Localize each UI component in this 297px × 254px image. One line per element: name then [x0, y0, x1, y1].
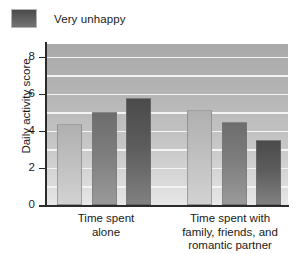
x-axis-group-label-line: Time spent	[46, 212, 166, 226]
x-axis-group-label-line: family, friends, and	[168, 226, 292, 240]
y-tick	[39, 168, 45, 170]
bar-g1-s0[interactable]	[187, 110, 212, 205]
y-tick-label-4: 4	[29, 125, 35, 137]
y-tick-label-6: 6	[29, 88, 35, 100]
bar-g1-s2[interactable]	[256, 140, 281, 205]
gridline	[46, 186, 288, 188]
gridline	[46, 94, 288, 96]
x-axis-group-label-line: romantic partner	[168, 239, 292, 253]
gridline	[46, 131, 288, 133]
gridline	[46, 75, 288, 77]
x-axis-group-label-0: Time spentalone	[46, 212, 166, 239]
y-axis-line	[45, 42, 47, 207]
y-tick-label-0: 0	[29, 199, 35, 211]
bar-g0-s2[interactable]	[126, 98, 151, 205]
bar-g0-s0[interactable]	[57, 124, 82, 205]
bar-chart: Daily activity score 02468 Time spentalo…	[0, 38, 297, 254]
y-tick-label-8: 8	[29, 51, 35, 63]
gridline	[46, 168, 288, 170]
y-tick	[39, 131, 45, 133]
gridline	[46, 149, 288, 151]
x-axis-group-label-line: alone	[46, 226, 166, 240]
plot-area	[46, 44, 288, 205]
bar-g0-s1[interactable]	[92, 112, 117, 205]
bar-g1-s1[interactable]	[222, 122, 247, 205]
x-axis-group-label-1: Time spent withfamily, friends, androman…	[168, 212, 292, 253]
y-tick	[39, 205, 45, 207]
gridline	[46, 112, 288, 114]
x-axis-line	[45, 205, 289, 207]
legend-swatch-very-unhappy	[11, 9, 37, 28]
chart-legend: Very unhappy	[11, 9, 126, 28]
legend-label-very-unhappy: Very unhappy	[54, 13, 126, 25]
x-axis-group-label-line: Time spent with	[168, 212, 292, 226]
y-tick-label-2: 2	[29, 162, 35, 174]
y-tick	[39, 57, 45, 59]
gridline	[46, 57, 288, 59]
y-tick	[39, 94, 45, 96]
